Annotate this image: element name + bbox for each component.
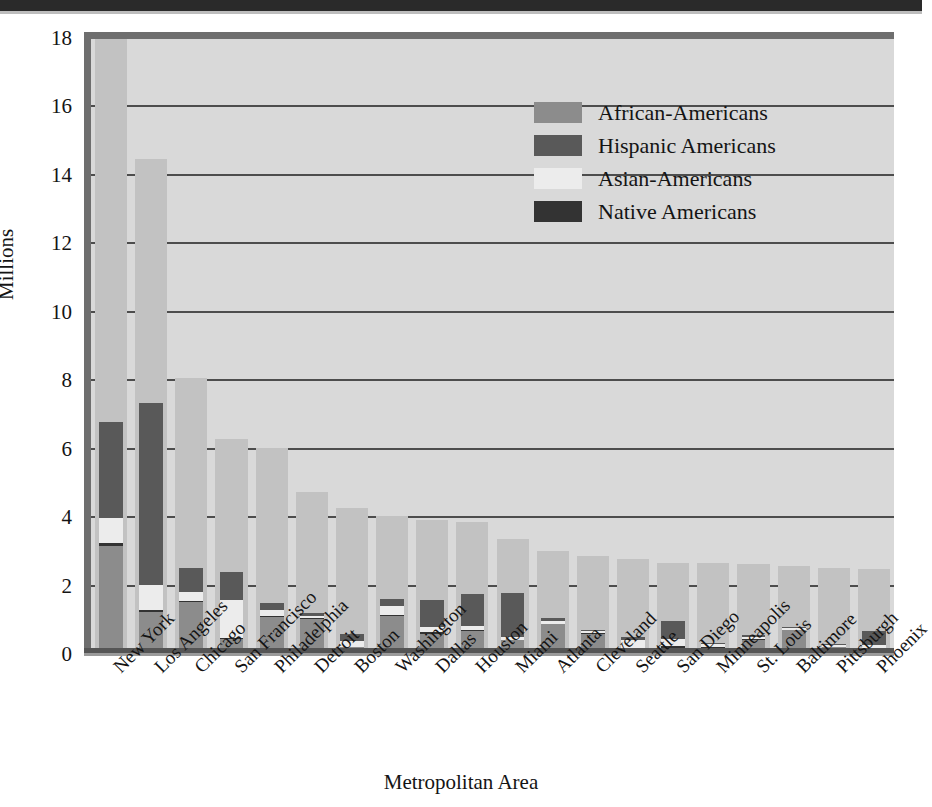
y-tick-label: 10 [2, 302, 72, 323]
y-tick-label: 16 [2, 96, 72, 117]
stacked-bar [260, 39, 284, 655]
gridline [91, 585, 894, 587]
x-axis-title: Metropolitan Area [0, 770, 922, 795]
bar-segment [139, 403, 163, 584]
y-tick-label: 2 [2, 576, 72, 597]
gridline [91, 448, 894, 450]
legend-label: Native Americans [598, 201, 756, 223]
bar-segment [380, 599, 404, 607]
bar-segment [99, 546, 123, 656]
legend-item: Native Americans [534, 195, 864, 228]
gridline [91, 379, 894, 381]
legend-label: Hispanic Americans [598, 135, 776, 157]
bar-segment [99, 543, 123, 546]
legend-item: African-Americans [534, 96, 864, 129]
bar-segment [220, 572, 244, 600]
stacked-bar [300, 39, 324, 655]
bar-segment [541, 618, 565, 621]
y-tick-label: 8 [2, 370, 72, 391]
legend-label: Asian-Americans [598, 168, 752, 190]
gridline [91, 516, 894, 518]
bar-segment [541, 621, 565, 624]
stacked-bar [340, 39, 364, 655]
bar-segment [99, 422, 123, 518]
stacked-bar [139, 39, 163, 655]
legend-label: African-Americans [598, 102, 768, 124]
stacked-bar [179, 39, 203, 655]
bar-segment [380, 606, 404, 615]
y-tick-label: 6 [2, 439, 72, 460]
y-tick-label: 18 [2, 28, 72, 49]
bar-segment [260, 603, 284, 610]
bar-segment [179, 568, 203, 592]
y-tick-label: 4 [2, 507, 72, 528]
y-tick-label: 0 [2, 644, 72, 665]
y-axis-title: Millions [0, 229, 19, 300]
legend-swatch [534, 168, 582, 189]
stacked-bar [99, 39, 123, 655]
scan-artifact-bar [0, 0, 922, 14]
bar-segment [179, 601, 203, 602]
stacked-bar [380, 39, 404, 655]
bar-segment [99, 518, 123, 543]
stacked-bar [220, 39, 244, 655]
legend: African-AmericansHispanic AmericansAsian… [534, 96, 864, 228]
gridline [91, 242, 894, 244]
gridline [91, 311, 894, 313]
bar-segment [179, 592, 203, 601]
bar-segment [139, 585, 163, 610]
stacked-bar [420, 39, 444, 655]
stacked-bar [461, 39, 485, 655]
stacked-bar [862, 39, 886, 655]
legend-item: Hispanic Americans [534, 129, 864, 162]
legend-swatch [534, 135, 582, 156]
y-tick-label: 14 [2, 165, 72, 186]
legend-swatch [534, 201, 582, 222]
legend-swatch [534, 102, 582, 123]
legend-item: Asian-Americans [534, 162, 864, 195]
stacked-bar [501, 39, 525, 655]
